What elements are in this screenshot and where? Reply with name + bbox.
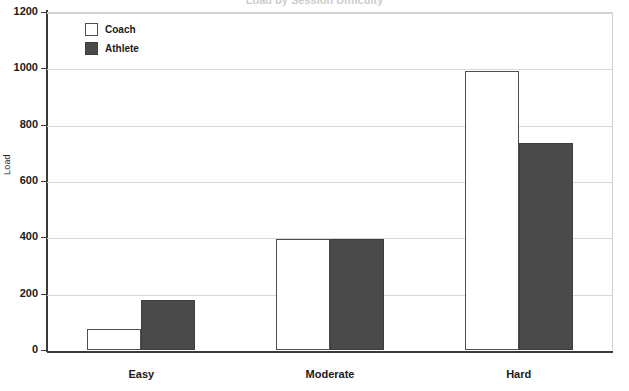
gridline-1200 bbox=[47, 13, 613, 14]
chart-legend: CoachAthlete bbox=[85, 20, 185, 58]
x-axis-label-hard: Hard bbox=[506, 368, 531, 380]
x-axis-label-easy: Easy bbox=[128, 368, 154, 380]
y-tick-label-0: 0 bbox=[0, 343, 38, 355]
bar-moderate-athlete[interactable] bbox=[330, 239, 384, 350]
y-tick-label-200: 200 bbox=[0, 287, 38, 299]
gridline-800 bbox=[47, 126, 613, 127]
y-axis-title: Load bbox=[2, 154, 12, 175]
bar-easy-athlete[interactable] bbox=[141, 300, 195, 350]
gridline-0 bbox=[47, 351, 613, 353]
legend-item-coach[interactable]: Coach bbox=[85, 20, 185, 39]
legend-label-athlete: Athlete bbox=[105, 43, 139, 54]
bar-chart-figure: Load 020040060080010001200 EasyModerateH… bbox=[0, 0, 629, 391]
y-tick-label-400: 400 bbox=[0, 230, 38, 242]
bar-hard-coach[interactable] bbox=[465, 71, 519, 350]
x-axis-label-moderate: Moderate bbox=[306, 368, 355, 380]
gridline-1000 bbox=[47, 69, 613, 70]
y-tick-label-800: 800 bbox=[0, 118, 38, 130]
bar-moderate-coach[interactable] bbox=[276, 239, 330, 350]
bar-easy-coach[interactable] bbox=[87, 329, 141, 350]
bar-hard-athlete[interactable] bbox=[519, 143, 573, 350]
legend-label-coach: Coach bbox=[105, 24, 136, 35]
hollow-square-swatch bbox=[85, 23, 98, 36]
legend-item-athlete[interactable]: Athlete bbox=[85, 39, 185, 58]
y-tick-label-600: 600 bbox=[0, 174, 38, 186]
y-tick-label-1000: 1000 bbox=[0, 61, 38, 73]
y-tick-label-1200: 1200 bbox=[0, 5, 38, 17]
plot-area bbox=[47, 12, 613, 350]
filled-square-swatch bbox=[85, 42, 98, 55]
